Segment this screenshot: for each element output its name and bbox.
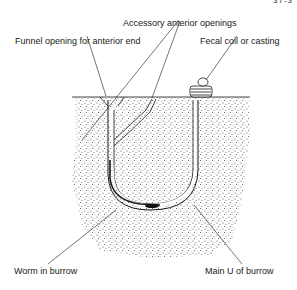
leader-accessory-2: [152, 21, 180, 98]
burrow-diagram: 37-3: [0, 0, 297, 290]
worm-segment-dark: [145, 204, 159, 208]
sediment: [72, 97, 250, 258]
label-accessory-openings: Accessory anterior openings: [123, 18, 237, 29]
fecal-coil: [190, 78, 212, 97]
label-fecal-coil: Fecal coil or casting: [200, 36, 280, 47]
label-worm-in-burrow: Worm in burrow: [14, 266, 77, 277]
label-main-u: Main U of burrow: [205, 266, 274, 277]
label-funnel-opening: Funnel opening for anterior end: [15, 36, 141, 47]
